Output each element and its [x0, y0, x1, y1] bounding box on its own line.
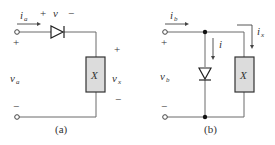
- load-a-plus: +: [114, 43, 120, 55]
- element-x-b-label: X: [239, 69, 248, 81]
- load-a-sub: x: [117, 78, 122, 86]
- source-b-minus: −: [161, 100, 167, 112]
- element-x-a-label: X: [90, 69, 99, 81]
- circuit-b: X i b i i x + v b − (b): [160, 9, 265, 136]
- load-a-label: v: [112, 72, 117, 84]
- current-label-b: i: [170, 9, 173, 21]
- junction-dot-bottom: [203, 115, 207, 119]
- caption-a: (a): [55, 123, 68, 136]
- circuit-diagram: X i a + v − + v a − + v x − (a): [0, 0, 275, 145]
- source-a-plus: +: [13, 36, 19, 48]
- diode-a-icon: [51, 26, 64, 38]
- caption-b: (b): [204, 123, 217, 136]
- diode-current-label: i: [219, 38, 222, 50]
- source-a-label: v: [10, 72, 15, 84]
- arrow-head-icon: [37, 22, 41, 26]
- load-a-minus: −: [115, 93, 121, 105]
- load-current-label: i: [257, 25, 260, 37]
- terminal-b-top: [163, 30, 168, 35]
- diode-v-plus: +: [40, 7, 46, 19]
- source-b-label: v: [160, 70, 165, 82]
- current-label-a: i: [20, 9, 23, 21]
- arrow-head-icon: [185, 22, 189, 26]
- arrow-head-icon: [250, 45, 254, 49]
- diode-b-icon: [199, 68, 211, 80]
- terminal-a-top: [15, 30, 20, 35]
- arrow-head-icon: [211, 56, 215, 60]
- load-current-sub: x: [260, 31, 265, 39]
- terminal-a-bottom: [15, 115, 20, 120]
- junction-dot-top: [203, 30, 207, 34]
- diode-v-minus: −: [68, 7, 74, 19]
- current-sub-a: a: [24, 15, 28, 23]
- circuit-a: X i a + v − + v a − + v x − (a): [10, 7, 122, 136]
- diode-v-label: v: [53, 7, 58, 19]
- source-b-plus: +: [161, 36, 167, 48]
- source-a-minus: −: [13, 100, 19, 112]
- source-a-sub: a: [16, 78, 20, 86]
- current-sub-b: b: [174, 15, 178, 23]
- terminal-b-bottom: [163, 115, 168, 120]
- source-b-sub: b: [166, 76, 170, 84]
